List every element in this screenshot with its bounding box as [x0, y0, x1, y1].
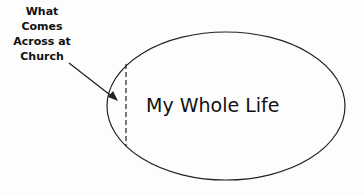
- ellipse-label: My Whole Life: [146, 94, 279, 116]
- callout-line-1: What: [8, 4, 76, 19]
- diagram-canvas: What Comes Across at Church My Whole Lif…: [0, 0, 364, 195]
- callout-line-4: Church: [8, 49, 76, 64]
- callout-arrow-line: [69, 63, 114, 98]
- callout-line-2: Comes: [8, 19, 76, 34]
- callout-line-3: Across at: [8, 34, 76, 49]
- callout-label: What Comes Across at Church: [8, 4, 76, 64]
